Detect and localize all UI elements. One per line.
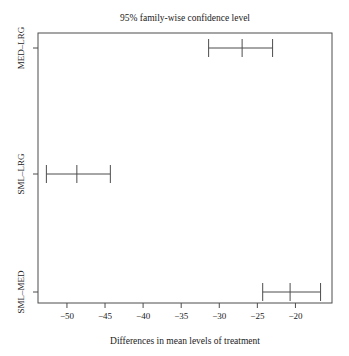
x-axis-title: Differences in mean levels of treatment: [110, 336, 260, 346]
x-tick-label: −45: [98, 311, 113, 321]
x-axis-ticks: [67, 303, 295, 308]
y-axis-ticks: [33, 48, 38, 292]
plot-canvas: 95% family-wise confidence level −50−45−…: [0, 0, 349, 356]
y-tick-label: MED–LRG: [16, 26, 26, 69]
interval-med-lrg: [209, 39, 273, 57]
y-tick-label: SML–LRG: [16, 153, 26, 195]
tukey-hsd-plot: 95% family-wise confidence level −50−45−…: [0, 0, 349, 356]
x-tick-label: −35: [174, 311, 189, 321]
chart-title: 95% family-wise confidence level: [120, 13, 250, 23]
y-axis-tick-labels: MED–LRGSML–LRGSML–MED: [16, 26, 26, 313]
plot-frame: [38, 33, 332, 303]
interval-sml-lrg: [46, 165, 110, 183]
y-tick-label: SML–MED: [16, 270, 26, 314]
x-tick-label: −25: [250, 311, 265, 321]
x-tick-label: −50: [60, 311, 75, 321]
x-axis-tick-labels: −50−45−40−35−30−25−20: [60, 311, 303, 321]
confidence-intervals: [46, 39, 320, 301]
x-tick-label: −30: [212, 311, 227, 321]
x-tick-label: −40: [136, 311, 151, 321]
interval-sml-med: [263, 283, 321, 301]
x-tick-label: −20: [288, 311, 303, 321]
